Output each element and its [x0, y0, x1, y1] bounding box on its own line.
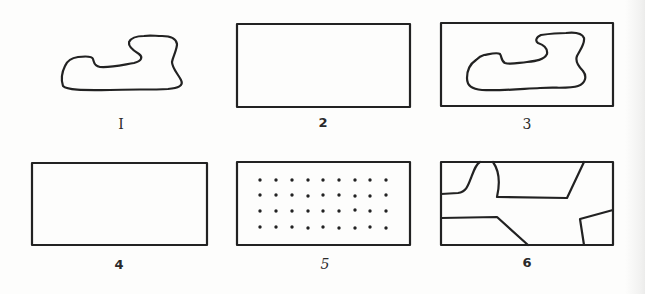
- panel-6-label: 6: [512, 255, 542, 271]
- panel-3-contour: [467, 33, 585, 91]
- figure-drawing: [0, 0, 645, 294]
- panel-5-rectangle: [237, 162, 410, 245]
- figure-canvas: I 2 3 4 5 6: [0, 0, 645, 294]
- panel-4-rectangle: [32, 163, 207, 245]
- panel-3-label: 3: [512, 116, 542, 132]
- panel-6-line-lower-right: [580, 210, 613, 245]
- panel-6-line-upper-left: [441, 162, 480, 194]
- panel-5-dot-grid: [258, 178, 387, 229]
- panel-3-rectangle: [441, 23, 613, 106]
- panel-2-rectangle: [237, 24, 410, 107]
- panel-6-line-lower-left: [441, 217, 528, 245]
- panel-1-contour: [62, 36, 182, 91]
- panel-5-label: 5: [310, 256, 340, 272]
- panel-1-label: I: [106, 116, 136, 132]
- panel-6-line-upper-middle: [493, 162, 584, 198]
- panel-6-rectangle: [441, 162, 613, 245]
- panel-2-label: 2: [308, 115, 338, 131]
- panel-4-label: 4: [104, 257, 134, 273]
